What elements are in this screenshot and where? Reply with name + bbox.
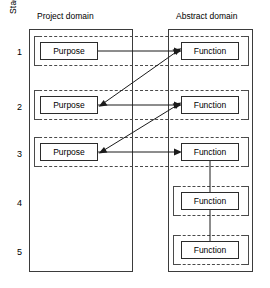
- node-purpose-1-label: Purpose: [53, 47, 85, 56]
- node-function-2-label: Function: [194, 101, 227, 110]
- node-purpose-2[interactable]: Purpose: [40, 96, 98, 114]
- stage-band-4-right-cap: [244, 186, 249, 216]
- stage-number-5: 5: [14, 248, 25, 257]
- node-function-2[interactable]: Function: [181, 96, 239, 114]
- node-function-5[interactable]: Function: [181, 241, 239, 259]
- node-function-5-label: Function: [194, 246, 227, 255]
- stage-number-3: 3: [14, 150, 25, 159]
- node-function-3[interactable]: Function: [181, 143, 239, 161]
- stage-band-1-right-cap: [244, 36, 249, 66]
- stage-number-2: 2: [14, 103, 25, 112]
- stage-band-3-left-cap: [34, 137, 39, 167]
- node-purpose-1[interactable]: Purpose: [40, 42, 98, 60]
- stage-number-4: 4: [14, 199, 25, 208]
- stage-band-4-left-cap: [173, 186, 178, 216]
- stage-band-1-left-cap: [34, 36, 39, 66]
- stage-band-2-left-cap: [34, 90, 39, 120]
- stage-number-1: 1: [14, 48, 25, 57]
- project-domain-title: Project domain: [37, 12, 94, 21]
- node-function-4[interactable]: Function: [181, 192, 239, 210]
- node-function-4-label: Function: [194, 197, 227, 206]
- abstract-domain-title: Abstract domain: [176, 12, 237, 21]
- node-purpose-3-label: Purpose: [53, 148, 85, 157]
- stage-band-5-left-cap: [173, 235, 178, 265]
- node-purpose-3[interactable]: Purpose: [40, 143, 98, 161]
- diagram-canvas: Stage 1 2 3 4 5 Project domain Abstract …: [0, 0, 270, 288]
- node-function-1-label: Function: [194, 47, 227, 56]
- node-function-1[interactable]: Function: [181, 42, 239, 60]
- node-purpose-2-label: Purpose: [53, 101, 85, 110]
- stage-band-5-right-cap: [244, 235, 249, 265]
- stage-band-2-right-cap: [244, 90, 249, 120]
- node-function-3-label: Function: [194, 148, 227, 157]
- stage-axis-label: Stage: [9, 0, 18, 14]
- stage-band-3-right-cap: [244, 137, 249, 167]
